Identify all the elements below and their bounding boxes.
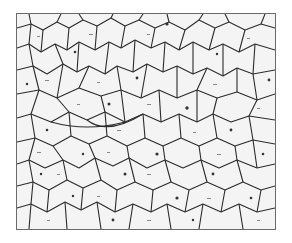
grain-structure bbox=[17, 14, 275, 229]
micrograph-frame bbox=[16, 13, 276, 230]
